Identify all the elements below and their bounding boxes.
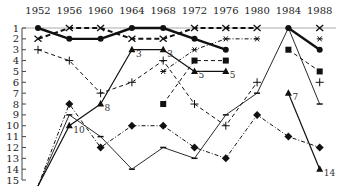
y-tick-label: 15: [6, 175, 19, 186]
point-label: 7: [292, 92, 298, 102]
x-tick-label: 1960: [88, 5, 113, 16]
x-tick-label: 1972: [182, 5, 207, 16]
triangle-marker-icon: [128, 46, 135, 53]
y-tick-label: 12: [6, 142, 19, 153]
diamond-marker-icon: [128, 122, 136, 130]
plus-marker-icon: [253, 78, 261, 86]
circle-marker-icon: [35, 25, 41, 31]
diamond-marker-icon: [253, 111, 261, 119]
series-line: [288, 50, 319, 72]
y-tick-label: 10: [6, 120, 19, 131]
series-dash-solid-thin: [38, 28, 320, 186]
asterisk-marker-icon: [223, 36, 229, 41]
y-tick-label: 1: [13, 23, 19, 34]
circle-marker-icon: [129, 25, 135, 31]
triangle-marker-icon: [316, 165, 323, 172]
asterisk-marker-icon: [254, 36, 260, 41]
triangle-marker-icon: [160, 46, 167, 53]
y-tick-label: 14: [6, 164, 19, 175]
square-marker-icon: [223, 58, 229, 64]
circle-marker-icon: [160, 25, 166, 31]
series-line: [163, 61, 226, 104]
point-label: 10: [73, 125, 85, 135]
series-group: 1083355714: [34, 25, 335, 186]
circle-marker-icon: [98, 36, 104, 42]
x-tick-label: 1964: [119, 5, 144, 16]
x-tick-label: 1952: [25, 5, 50, 16]
point-label: 8: [105, 103, 111, 113]
plus-marker-icon: [159, 57, 167, 65]
y-tick-label: 8: [13, 99, 19, 110]
x-tick-label: 1976: [213, 5, 238, 16]
series-line: [288, 93, 319, 169]
diamond-marker-icon: [222, 154, 230, 162]
asterisk-marker-icon: [317, 36, 323, 41]
series-line: [38, 104, 320, 186]
y-tick-label: 4: [13, 55, 19, 66]
series-diamond-dashdot: [38, 104, 320, 186]
circle-marker-icon: [317, 47, 323, 53]
diamond-marker-icon: [316, 143, 324, 151]
plus-marker-icon: [97, 89, 105, 97]
y-tick-label: 2: [13, 33, 19, 44]
triangle-marker-icon: [285, 89, 292, 96]
triangle-marker-icon: [66, 122, 73, 129]
x-tick-label: 1968: [150, 5, 175, 16]
plus-marker-icon: [34, 46, 42, 54]
diamond-marker-icon: [97, 143, 105, 151]
diamond-marker-icon: [159, 122, 167, 130]
x-tick-label: 1956: [57, 5, 82, 16]
y-tick-label: 13: [6, 153, 19, 164]
y-tick-label: 3: [13, 44, 19, 55]
triangle-marker-icon: [97, 100, 104, 107]
plus-marker-icon: [316, 78, 324, 86]
plus-marker-icon: [128, 78, 136, 86]
triangle-marker-icon: [191, 67, 198, 74]
diamond-marker-icon: [284, 133, 292, 141]
y-tick-label: 5: [13, 66, 19, 77]
series-circle-thick-solid: [38, 28, 320, 50]
x-tick-label: 1988: [307, 5, 332, 16]
diamond-marker-icon: [65, 100, 73, 108]
y-tick-label: 6: [13, 77, 19, 88]
plus-marker-icon: [222, 122, 230, 130]
triangle-marker-icon: [222, 67, 229, 74]
square-marker-icon: [160, 101, 166, 107]
y-tick-label: 11: [6, 131, 19, 142]
y-tick-label: 9: [13, 109, 19, 120]
y-tick-label: 7: [13, 88, 19, 99]
series-triangle-solid-b: 714: [288, 92, 335, 178]
point-label: 5: [199, 70, 205, 80]
point-label: 14: [324, 168, 336, 178]
point-label: 3: [167, 49, 173, 59]
x-tick-label: 1980: [244, 5, 269, 16]
asterisk-marker-icon: [192, 47, 198, 52]
x-tick-label: 1984: [276, 5, 301, 16]
square-marker-icon: [192, 58, 198, 64]
rank-line-chart: 1234567891011121314151952195619601964196…: [0, 0, 341, 188]
square-marker-icon: [317, 68, 323, 74]
series-line: [38, 28, 320, 186]
point-label: 5: [230, 70, 236, 80]
circle-marker-icon: [66, 36, 72, 42]
circle-marker-icon: [223, 47, 229, 53]
circle-marker-icon: [192, 36, 198, 42]
square-marker-icon: [285, 47, 291, 53]
point-label: 3: [136, 49, 142, 59]
diamond-marker-icon: [191, 143, 199, 151]
plus-marker-icon: [191, 100, 199, 108]
